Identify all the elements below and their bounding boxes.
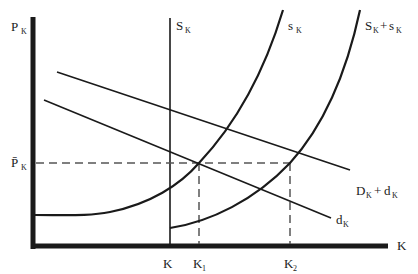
svg-text:K: K bbox=[343, 220, 349, 229]
svg-text:+: + bbox=[374, 183, 381, 198]
svg-text:S: S bbox=[365, 18, 372, 33]
svg-text:K: K bbox=[392, 191, 398, 200]
x-axis-label: K bbox=[397, 238, 407, 253]
y-axis-label: P K bbox=[11, 19, 27, 36]
new-supply-label: s K bbox=[288, 18, 302, 35]
x-tick-k1: K 1 bbox=[193, 256, 206, 273]
total-demand-line bbox=[57, 72, 350, 170]
x-tick-k2: K 2 bbox=[284, 256, 297, 273]
total-supply-label: S K + s K bbox=[365, 18, 402, 35]
svg-text:s: s bbox=[389, 18, 394, 33]
svg-text:D: D bbox=[356, 183, 365, 198]
svg-text:d: d bbox=[384, 183, 391, 198]
svg-text:s: s bbox=[288, 18, 293, 33]
price-level-label: P̄ K bbox=[11, 155, 27, 172]
fixed-supply-label: S K bbox=[176, 18, 191, 35]
new-demand-line bbox=[44, 100, 331, 218]
svg-text:K: K bbox=[396, 26, 402, 35]
svg-text:K: K bbox=[366, 191, 372, 200]
svg-text:2: 2 bbox=[293, 264, 297, 273]
svg-text:d: d bbox=[336, 212, 343, 227]
svg-text:K: K bbox=[163, 256, 173, 271]
svg-text:S: S bbox=[176, 18, 183, 33]
svg-text:+: + bbox=[380, 18, 387, 33]
svg-text:K: K bbox=[296, 26, 302, 35]
svg-text:K: K bbox=[21, 163, 27, 172]
total-demand-label: D K + d K bbox=[356, 183, 398, 200]
svg-text:P̄: P̄ bbox=[11, 155, 18, 170]
supply-demand-diagram: P K P̄ K K S K s K S K + s K D K + d K d… bbox=[0, 0, 418, 274]
svg-text:K: K bbox=[21, 27, 27, 36]
new-demand-label: d K bbox=[336, 212, 349, 229]
svg-text:K: K bbox=[185, 26, 191, 35]
svg-text:1: 1 bbox=[202, 264, 206, 273]
svg-text:K: K bbox=[397, 238, 407, 253]
svg-text:P: P bbox=[11, 19, 18, 34]
x-tick-k: K bbox=[163, 256, 173, 271]
svg-text:K: K bbox=[373, 26, 379, 35]
new-supply-curve bbox=[35, 10, 283, 215]
